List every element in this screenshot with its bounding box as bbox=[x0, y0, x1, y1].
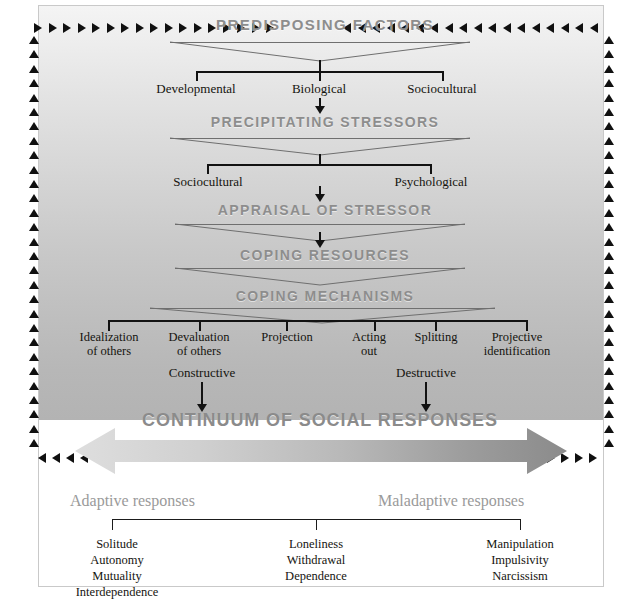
feedback-arrow-right-side bbox=[604, 367, 614, 375]
feedback-arrow-left-side bbox=[29, 137, 39, 145]
heading-appraisal-of-stressor: APPRAISAL OF STRESSOR bbox=[160, 202, 490, 218]
mechanism-line-1: Devaluation bbox=[168, 330, 229, 344]
feedback-arrow-right-side bbox=[604, 151, 614, 159]
response-item: Autonomy bbox=[90, 553, 143, 567]
bracket-predisposing-tick-mid bbox=[319, 71, 321, 81]
feedback-arrow-top-left bbox=[150, 23, 158, 33]
feedback-arrow-right-side bbox=[604, 353, 614, 361]
feedback-arrow-right-side bbox=[604, 295, 614, 303]
feedback-arrow-left-side bbox=[29, 252, 39, 260]
funnel-coping-resources bbox=[175, 268, 465, 286]
funnel-predisposing bbox=[170, 42, 470, 62]
feedback-arrow-bottom-right bbox=[589, 453, 597, 463]
continuum-heading-maladaptive: Maladaptive responses bbox=[378, 492, 524, 510]
bracket-continuum-tick-right bbox=[520, 519, 521, 530]
mechanism-line-1: Idealization bbox=[80, 330, 139, 344]
feedback-arrow-right-side bbox=[604, 94, 614, 102]
feedback-arrow-left-side bbox=[29, 108, 39, 116]
valence-label-constructive: Constructive bbox=[152, 366, 252, 381]
feedback-arrow-left-side bbox=[29, 238, 39, 246]
feedback-arrow-left-side bbox=[29, 50, 39, 58]
feedback-arrow-left-side bbox=[29, 353, 39, 361]
heading-precipitating-stressors: PRECIPITATING STRESSORS bbox=[160, 114, 490, 130]
feedback-arrow-right-side bbox=[604, 223, 614, 231]
feedback-arrow-right-side bbox=[604, 36, 614, 44]
feedback-arrow-left-side bbox=[29, 151, 39, 159]
arrow-constructive-to-continuum bbox=[196, 382, 208, 412]
heading-predisposing-factors: PREDISPOSING FACTORS bbox=[160, 16, 490, 33]
precipitating-stressor-sociocultural: Sociocultural bbox=[153, 175, 263, 190]
arrow-destructive-to-continuum bbox=[420, 382, 432, 412]
feedback-arrow-left-side bbox=[29, 324, 39, 332]
response-group-maladaptive: Manipulation Impulsivity Narcissism bbox=[460, 536, 580, 584]
bracket-precipitating-tick-right bbox=[430, 164, 432, 174]
feedback-arrow-top-left bbox=[107, 23, 115, 33]
bracket-continuum-tick-mid bbox=[316, 519, 317, 530]
mechanism-line-2: of others bbox=[87, 344, 131, 358]
response-item: Manipulation bbox=[486, 537, 553, 551]
response-item: Impulsivity bbox=[491, 553, 549, 567]
feedback-arrow-left-side bbox=[29, 382, 39, 390]
feedback-arrow-bottom-left bbox=[66, 453, 74, 463]
response-group-middle: Loneliness Withdrawal Dependence bbox=[256, 536, 376, 584]
feedback-arrow-top-right bbox=[590, 23, 598, 33]
feedback-arrow-top-right bbox=[561, 23, 569, 33]
feedback-arrow-left-side bbox=[29, 65, 39, 73]
predisposing-factor-developmental: Developmental bbox=[141, 82, 251, 97]
feedback-arrow-left-side bbox=[29, 79, 39, 87]
feedback-arrow-top-left bbox=[34, 23, 42, 33]
feedback-arrow-top-right bbox=[517, 23, 525, 33]
bracket-predisposing-tick-right bbox=[442, 71, 444, 81]
mechanism-line-2: of others bbox=[177, 344, 221, 358]
feedback-arrow-right-side bbox=[604, 252, 614, 260]
feedback-arrow-left-side bbox=[29, 396, 39, 404]
feedback-arrow-right-side bbox=[604, 338, 614, 346]
feedback-arrow-left-side bbox=[29, 295, 39, 303]
feedback-arrow-right-side bbox=[604, 382, 614, 390]
coping-mechanism-idealization: Idealization of others bbox=[63, 330, 155, 358]
arrow-to-appraisal bbox=[314, 186, 326, 202]
heading-coping-mechanisms: COPING MECHANISMS bbox=[160, 288, 490, 304]
bracket-mechanisms-bar bbox=[108, 320, 527, 322]
bracket-precipitating-tick-left bbox=[207, 164, 209, 174]
feedback-arrow-top-left bbox=[49, 23, 57, 33]
feedback-arrow-left-side bbox=[29, 338, 39, 346]
continuum-double-arrow bbox=[75, 425, 567, 477]
response-item: Mutuality bbox=[92, 569, 141, 583]
feedback-arrow-left-side bbox=[29, 194, 39, 202]
continuum-heading-adaptive: Adaptive responses bbox=[70, 492, 195, 510]
feedback-arrow-top-left bbox=[136, 23, 144, 33]
feedback-arrow-left-side bbox=[29, 166, 39, 174]
coping-mechanism-projection: Projection bbox=[245, 330, 329, 344]
feedback-arrow-left-side bbox=[29, 36, 39, 44]
feedback-arrow-left-side bbox=[29, 439, 39, 447]
feedback-arrow-right-side bbox=[604, 50, 614, 58]
feedback-arrow-left-side bbox=[29, 209, 39, 217]
bracket-precipitating-bar bbox=[207, 164, 432, 166]
feedback-arrow-right-side bbox=[604, 324, 614, 332]
response-item: Loneliness bbox=[289, 537, 343, 551]
mechanism-line-1: Splitting bbox=[414, 330, 457, 344]
response-item: Interdependence bbox=[76, 585, 159, 599]
coping-mechanism-projective-identification: Projective identification bbox=[462, 330, 572, 358]
feedback-arrow-bottom-right bbox=[575, 453, 583, 463]
feedback-arrow-top-left bbox=[63, 23, 71, 33]
feedback-arrow-right-side bbox=[604, 137, 614, 145]
feedback-arrow-top-right bbox=[575, 23, 583, 33]
feedback-arrow-right-side bbox=[604, 209, 614, 217]
feedback-arrow-top-right bbox=[546, 23, 554, 33]
feedback-arrow-top-left bbox=[121, 23, 129, 33]
feedback-arrow-bottom-left bbox=[38, 453, 46, 463]
feedback-arrow-left-side bbox=[29, 367, 39, 375]
response-item: Withdrawal bbox=[287, 553, 346, 567]
response-item: Narcissism bbox=[492, 569, 548, 583]
feedback-arrow-left-side bbox=[29, 180, 39, 188]
feedback-arrow-right-side bbox=[604, 310, 614, 318]
feedback-arrow-left-side bbox=[29, 281, 39, 289]
feedback-arrow-right-side bbox=[604, 238, 614, 246]
predisposing-factor-biological: Biological bbox=[275, 82, 363, 97]
feedback-arrow-right-side bbox=[604, 194, 614, 202]
mechanism-line-1: Projective bbox=[492, 330, 543, 344]
feedback-arrow-right-side bbox=[604, 439, 614, 447]
mechanism-line-2: identification bbox=[484, 344, 551, 358]
